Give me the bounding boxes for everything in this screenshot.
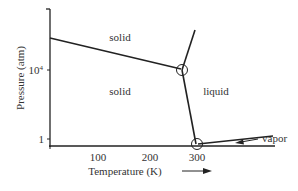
y-axis-title: Pressure (atm): [14, 46, 27, 110]
temperature-arrow-icon: [203, 168, 212, 174]
region-label-solid-lower: solid: [109, 85, 131, 97]
x-tick-label-200: 200: [142, 151, 159, 163]
phase-diagram: 104 1 100 200 300 Pressure (atm) Tempera…: [0, 0, 298, 191]
x-axis-title: Temperature (K): [88, 165, 162, 178]
solid-liquid-boundary: [182, 70, 196, 144]
high-solid-liquid-boundary: [182, 30, 195, 70]
y-tick-label-10-4: 104: [29, 64, 44, 76]
region-label-liquid: liquid: [203, 85, 229, 97]
y-tick-label-1: 1: [39, 133, 45, 145]
x-tick-label-300: 300: [189, 151, 206, 163]
region-label-solid-upper: solid: [109, 31, 131, 43]
region-label-vapor: vapor: [262, 132, 287, 144]
x-tick-label-100: 100: [90, 151, 107, 163]
